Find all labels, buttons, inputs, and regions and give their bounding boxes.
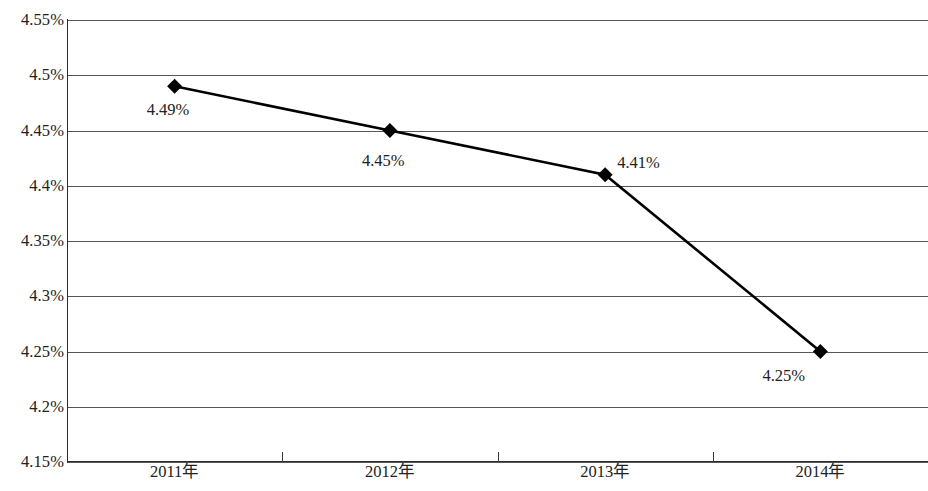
y-axis-line — [67, 19, 68, 463]
y-axis-tick-label: 4.2% — [0, 399, 64, 416]
x-axis-tick-label: 2013年 — [580, 464, 630, 481]
x-axis-tickmark — [498, 452, 499, 462]
gridline — [67, 241, 928, 242]
x-axis-tickmark — [713, 452, 714, 462]
gridline — [67, 20, 928, 21]
y-axis-labels: 4.55% 4.5% 4.45% 4.4% 4.35% 4.3% 4.25% 4… — [0, 0, 64, 491]
y-axis-tick-label: 4.5% — [0, 67, 64, 84]
y-axis-tick-label: 4.4% — [0, 178, 64, 195]
x-axis-tick-label: 2014年 — [795, 464, 845, 481]
y-axis-tick-label: 4.35% — [0, 233, 64, 250]
data-point-label: 4.25% — [762, 368, 805, 385]
data-point-label: 4.41% — [617, 155, 660, 172]
gridline — [67, 352, 928, 353]
plot-area — [67, 20, 928, 462]
gridline — [67, 296, 928, 297]
gridline — [67, 75, 928, 76]
gridline — [67, 131, 928, 132]
line-chart: 4.55% 4.5% 4.45% 4.4% 4.35% 4.3% 4.25% 4… — [0, 0, 928, 491]
y-axis-tick-label: 4.45% — [0, 123, 64, 140]
y-axis-tick-label: 4.15% — [0, 454, 64, 471]
data-point-label: 4.49% — [147, 102, 190, 119]
y-axis-tick-label: 4.55% — [0, 12, 64, 29]
y-axis-tick-label: 4.3% — [0, 288, 64, 305]
x-axis-tickmark — [282, 452, 283, 462]
gridline — [67, 186, 928, 187]
y-axis-tick-label: 4.25% — [0, 344, 64, 361]
data-point-label: 4.45% — [362, 153, 405, 170]
x-axis-tick-label: 2011年 — [150, 464, 199, 481]
gridline — [67, 407, 928, 408]
x-axis-tick-label: 2012年 — [365, 464, 415, 481]
